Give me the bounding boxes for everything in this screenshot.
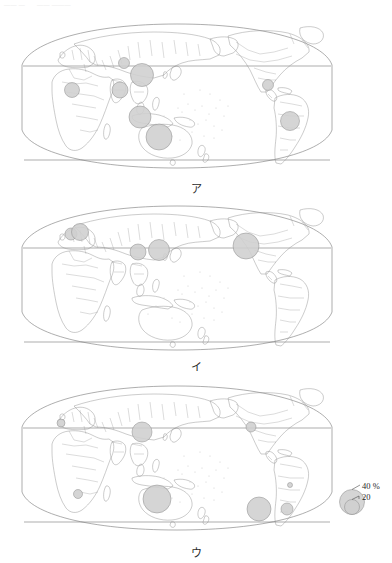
figure-b-caption: イ — [0, 358, 392, 374]
world-map-b — [14, 202, 340, 354]
bubble-china — [132, 422, 152, 442]
bubble-japan-korea — [149, 240, 170, 261]
bubble-south-africa — [74, 490, 83, 499]
bubble-chile — [247, 497, 271, 521]
bubble-india — [112, 82, 128, 98]
figure-a: ア — [0, 14, 392, 196]
bubble-brazil — [288, 483, 293, 488]
legend-label-lower: 20 — [362, 492, 371, 502]
page-header: —— — —— ——— — [4, 1, 204, 10]
bubble-china — [130, 244, 146, 260]
bubble-size-legend: 40 % 20 — [338, 476, 392, 522]
bubble-west-africa — [65, 83, 80, 98]
bubble-united-states — [233, 233, 259, 259]
figure-c-caption: ウ — [0, 544, 392, 560]
bubble-united-states — [246, 422, 256, 432]
figure-a-caption: ア — [0, 180, 392, 196]
page-header-segment-2: —— ——— — [37, 2, 71, 8]
bubble-australia — [146, 124, 172, 150]
bubble-central-europe — [72, 224, 89, 241]
legend-label-upper: 40 % — [362, 481, 380, 491]
bubble-central-asia — [119, 58, 130, 69]
figure-c: 40 % 20 ウ — [0, 376, 392, 563]
world-map-a — [14, 20, 340, 172]
page-header-segment-1: —— — — [4, 2, 25, 8]
bubble-group-c — [57, 419, 293, 521]
bubble-morocco — [57, 419, 65, 427]
bubble-brazil — [281, 112, 300, 131]
bubble-group-b — [65, 224, 259, 261]
bubble-china — [131, 64, 154, 87]
figure-b: イ — [0, 196, 392, 376]
bubble-colombia-venezuela — [263, 80, 274, 91]
bubble-indonesia — [129, 106, 151, 128]
world-map-c — [14, 382, 340, 534]
bubble-argentina — [281, 503, 293, 515]
bubble-australia — [143, 485, 171, 513]
